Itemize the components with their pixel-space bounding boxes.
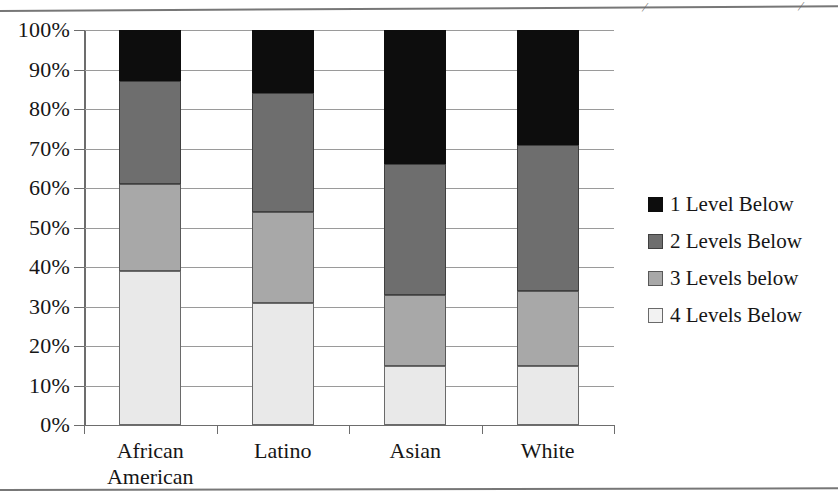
y-axis-tick-label: 10% xyxy=(4,375,70,397)
x-axis-tick xyxy=(217,425,218,434)
x-axis-tick xyxy=(84,425,85,434)
legend-item[interactable]: 1 Level Below xyxy=(648,186,838,223)
y-axis-labels: 100%90%80%70%60%50%40%30%20%10%0% xyxy=(0,30,70,426)
legend-swatch-icon xyxy=(648,308,663,323)
bar-latino[interactable] xyxy=(252,30,314,425)
bar-segment[interactable] xyxy=(517,30,579,145)
bar-african-american[interactable] xyxy=(119,30,181,425)
bar-segment[interactable] xyxy=(517,145,579,291)
legend-label: 1 Level Below xyxy=(670,194,794,215)
y-axis-tick xyxy=(74,346,85,347)
y-axis-tick-label: 90% xyxy=(4,59,70,81)
x-axis-tick-label-line: American xyxy=(70,464,230,490)
bar-segment[interactable] xyxy=(517,366,579,425)
chart-legend: 1 Level Below2 Levels Below3 Levels belo… xyxy=(648,186,838,334)
legend-item[interactable]: 4 Levels Below xyxy=(648,297,838,334)
bar-segment[interactable] xyxy=(119,81,181,184)
x-axis-tick xyxy=(614,425,615,434)
bar-segment[interactable] xyxy=(119,184,181,271)
legend-swatch-icon xyxy=(648,197,663,212)
bar-segment[interactable] xyxy=(384,295,446,366)
y-axis-tick xyxy=(74,267,85,268)
legend-label: 3 Levels below xyxy=(670,268,798,289)
legend-swatch-icon xyxy=(648,234,663,249)
y-axis-tick-label: 50% xyxy=(4,217,70,239)
y-axis-tick-label: 40% xyxy=(4,256,70,278)
y-axis-tick xyxy=(74,307,85,308)
y-axis-tick xyxy=(74,228,85,229)
plot-area xyxy=(84,30,614,425)
y-axis-tick xyxy=(74,109,85,110)
text-descender-artifact: ⁄ xyxy=(644,0,646,15)
bar-segment[interactable] xyxy=(119,30,181,81)
y-axis-tick-label: 80% xyxy=(4,98,70,120)
y-axis-tick xyxy=(74,149,85,150)
text-descender-artifact: ⁄ xyxy=(800,0,802,15)
bar-segment[interactable] xyxy=(384,30,446,164)
y-axis-tick xyxy=(74,70,85,71)
legend-item[interactable]: 3 Levels below xyxy=(648,260,838,297)
bar-segment[interactable] xyxy=(252,212,314,303)
bar-segment[interactable] xyxy=(119,271,181,425)
y-axis-tick xyxy=(74,386,85,387)
legend-label: 2 Levels Below xyxy=(670,231,802,252)
y-axis-tick xyxy=(74,188,85,189)
bar-asian[interactable] xyxy=(384,30,446,425)
y-axis-tick-label: 100% xyxy=(4,19,70,41)
bar-segment[interactable] xyxy=(252,30,314,93)
bar-segment[interactable] xyxy=(252,303,314,425)
x-axis-tick xyxy=(349,425,350,434)
bar-segment[interactable] xyxy=(252,93,314,212)
y-axis-tick-label: 60% xyxy=(4,177,70,199)
x-axis-tick xyxy=(482,425,483,434)
stacked-bar-chart: 100%90%80%70%60%50%40%30%20%10%0% Africa… xyxy=(0,18,838,478)
bar-white[interactable] xyxy=(517,30,579,425)
y-axis-tick-label: 70% xyxy=(4,138,70,160)
legend-swatch-icon xyxy=(648,271,663,286)
y-axis-tick xyxy=(74,30,85,31)
y-axis-tick-label: 0% xyxy=(4,414,70,436)
bar-segment[interactable] xyxy=(517,291,579,366)
bar-segment[interactable] xyxy=(384,366,446,425)
x-axis-tick-label-line: White xyxy=(468,438,628,464)
y-axis-tick-label: 20% xyxy=(4,335,70,357)
legend-item[interactable]: 2 Levels Below xyxy=(648,223,838,260)
y-axis-tick-label: 30% xyxy=(4,296,70,318)
bar-segment[interactable] xyxy=(384,164,446,294)
legend-label: 4 Levels Below xyxy=(670,305,802,326)
page-rule-top: ⁄ ⁄ xyxy=(0,5,838,12)
x-axis-tick-label: White xyxy=(468,438,628,464)
